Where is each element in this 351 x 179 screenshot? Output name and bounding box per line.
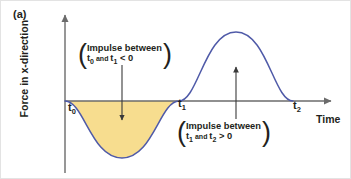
annotation-positive-line1: Impulse between [186, 121, 261, 131]
annotation-negative-line2: t0 and t1 < 0 [87, 53, 162, 65]
x-axis-title: Time [316, 114, 340, 125]
y-axis-title: Force in x-direction [19, 9, 30, 129]
tick-label-t0-sub: 0 [72, 107, 76, 116]
paren-close-icon: ) [262, 121, 271, 144]
tick-label-t2: t2 [293, 100, 301, 114]
ann-pos-and: and [193, 133, 209, 140]
paren-open-icon: ( [177, 121, 186, 144]
annotation-positive-text: Impulse between t1 and t2 > 0 [186, 121, 261, 144]
tick-label-t2-sub: 2 [297, 105, 301, 114]
ann-neg-and: and [94, 55, 110, 62]
paren-open-icon: ( [78, 43, 87, 66]
tick-label-t1-sub: 1 [182, 103, 186, 112]
paren-close-icon: ) [163, 43, 172, 66]
annotation-positive-impulse: ( Impulse between t1 and t2 > 0 ) [177, 121, 271, 144]
annotation-negative-text: Impulse between t0 and t1 < 0 [87, 43, 162, 66]
annotation-positive-line2: t1 and t2 > 0 [186, 131, 261, 143]
annotation-negative-line1: Impulse between [87, 43, 162, 53]
tick-label-t0: t0 [68, 102, 76, 116]
ann-pos-rel: > 0 [216, 131, 232, 141]
tick-label-t1: t1 [178, 98, 186, 112]
annotation-negative-impulse: ( Impulse between t0 and t1 < 0 ) [78, 43, 172, 66]
plot-canvas [1, 1, 351, 179]
force-time-figure: (a) Force in x-direction Time t0 t1 t2 (… [0, 0, 351, 179]
ann-neg-rel: < 0 [117, 53, 133, 63]
